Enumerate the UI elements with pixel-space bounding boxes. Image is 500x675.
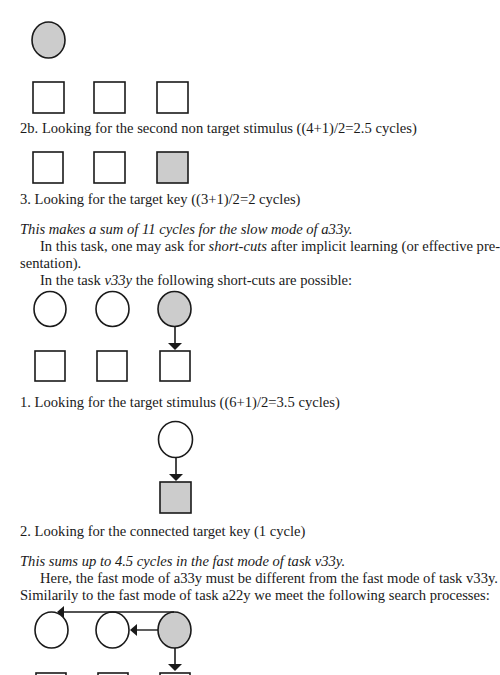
figure-stimulus-keys bbox=[0, 0, 491, 118]
shortcuts-paragraph-cont: sentation). bbox=[20, 255, 81, 272]
target-key-square bbox=[160, 351, 190, 381]
stimulus-circle-2 bbox=[96, 612, 129, 648]
stimulus-circle bbox=[159, 422, 193, 458]
stimulus-circle-1 bbox=[35, 612, 68, 648]
figure-shortcut bbox=[0, 285, 491, 385]
emphasis-short-cuts: short-cuts bbox=[209, 238, 267, 254]
figure-connected-key bbox=[0, 415, 491, 520]
key-square-1 bbox=[35, 351, 65, 381]
key-square-1 bbox=[33, 152, 63, 183]
key-square-1 bbox=[33, 82, 64, 113]
key-square-3 bbox=[157, 82, 188, 113]
key-square-2 bbox=[94, 152, 125, 183]
sum-slow-mode: This makes a sum of 11 cycles for the sl… bbox=[20, 221, 353, 238]
figure-a33y-fast bbox=[0, 600, 491, 675]
arrow-head-icon bbox=[168, 343, 182, 350]
shortcuts-paragraph: In this task, one may ask for short-cuts… bbox=[20, 238, 500, 255]
text: after implicit learning (or effective pr… bbox=[267, 238, 500, 254]
stimulus-circle-2 bbox=[96, 292, 129, 327]
text: In this task, one may ask for bbox=[40, 238, 209, 254]
arrow-head-icon bbox=[130, 624, 137, 636]
arrow-head-icon bbox=[168, 664, 182, 671]
target-key-square bbox=[157, 152, 188, 183]
key-square-2 bbox=[94, 82, 125, 113]
target-stimulus-circle bbox=[158, 292, 191, 327]
caption-step-2b: 2b. Looking for the second non target st… bbox=[20, 120, 417, 137]
here-paragraph: Here, the fast mode of a33y must be diff… bbox=[20, 570, 498, 587]
caption-step-3: 3. Looking for the target key ((3+1)/2=2… bbox=[20, 191, 300, 208]
target-stimulus-circle bbox=[32, 22, 65, 58]
caption-step-2-fast: 2. Looking for the connected target key … bbox=[20, 523, 305, 540]
sum-fast-mode: This sums up to 4.5 cycles in the fast m… bbox=[20, 553, 345, 570]
target-stimulus-circle bbox=[158, 612, 191, 648]
key-square-2 bbox=[97, 351, 127, 381]
caption-step-1-fast: 1. Looking for the target stimulus ((6+1… bbox=[20, 394, 340, 411]
figure-target-key bbox=[0, 145, 491, 190]
target-key-square bbox=[160, 482, 191, 513]
stimulus-circle-1 bbox=[34, 292, 66, 327]
arrow-head-icon bbox=[169, 474, 183, 481]
